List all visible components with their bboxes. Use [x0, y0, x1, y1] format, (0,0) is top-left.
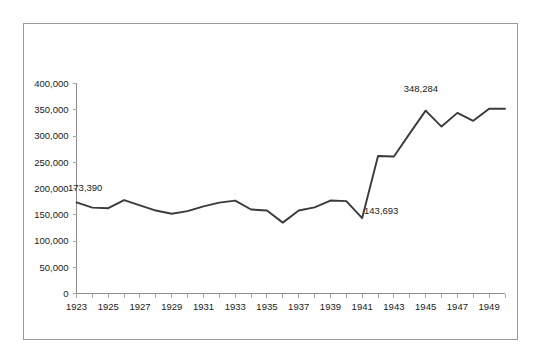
x-axis-tick-label: 1949	[479, 301, 500, 312]
x-axis-tick-label: 1937	[288, 301, 309, 312]
y-axis-tick-label: 50,000	[39, 262, 68, 273]
y-axis-tick-label: 250,000	[34, 157, 68, 168]
x-axis-tick-label: 1933	[225, 301, 246, 312]
y-axis-tick-label: 150,000	[34, 209, 68, 220]
x-axis-tick-label: 1931	[193, 301, 214, 312]
x-axis-tick-label: 1935	[256, 301, 277, 312]
data-point-label: 143,693	[364, 205, 398, 216]
data-labels: 173,390143,693348,284	[68, 83, 438, 215]
x-axis-tick-label: 1939	[320, 301, 341, 312]
y-axis-tick-label: 400,000	[34, 78, 68, 89]
x-axis: 1923192519271929193119331935193719391941…	[66, 294, 505, 312]
data-point-label: 173,390	[68, 182, 102, 193]
series-line-series-1	[77, 109, 506, 223]
data-series	[77, 109, 506, 223]
x-axis-tick-label: 1927	[129, 301, 150, 312]
y-axis-tick-label: 0	[63, 288, 68, 299]
y-axis-tick-label: 350,000	[34, 104, 68, 115]
x-axis-tick-label: 1929	[161, 301, 182, 312]
y-axis-tick-label: 200,000	[34, 183, 68, 194]
data-point-label: 348,284	[404, 83, 438, 94]
y-axis-tick-label: 100,000	[34, 235, 68, 246]
chart-svg: 400,000350,000300,000250,000200,000150,0…	[0, 0, 541, 364]
line-chart: 400,000350,000300,000250,000200,000150,0…	[0, 0, 541, 364]
x-axis-tick-label: 1925	[98, 301, 119, 312]
x-axis-tick-label: 1941	[352, 301, 373, 312]
x-axis-tick-label: 1923	[66, 301, 87, 312]
x-axis-tick-label: 1943	[383, 301, 404, 312]
x-axis-tick-label: 1945	[415, 301, 436, 312]
y-axis-tick-label: 300,000	[34, 130, 68, 141]
x-axis-tick-label: 1947	[447, 301, 468, 312]
